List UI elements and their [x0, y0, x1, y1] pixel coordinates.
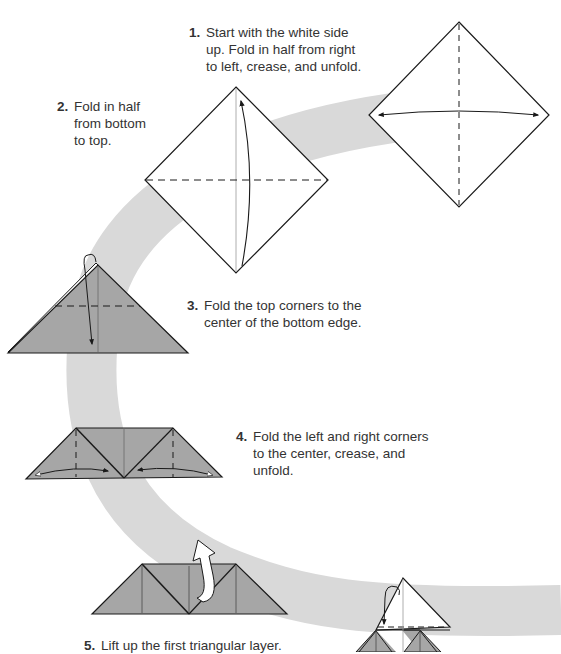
step-number: 1. [189, 24, 200, 41]
step-4-instruction: 4. Fold the left and right corners to th… [236, 428, 436, 479]
step-text: Fold the top corners to the center of th… [187, 297, 367, 331]
step-text: Fold the left and right corners to the c… [236, 428, 436, 479]
step-text: Lift up the first triangular layer. [84, 637, 344, 654]
step-number: 5. [84, 637, 95, 654]
step-text: Start with the white side up. Fold in ha… [189, 24, 369, 75]
step-1-instruction: 1. Start with the white side up. Fold in… [189, 24, 369, 75]
step-number: 3. [187, 297, 198, 314]
step-5-instruction: 5. Lift up the first triangular layer. [84, 637, 344, 654]
step-text: Fold in half from bottom to top. [57, 98, 157, 149]
step-3-diagram [8, 254, 188, 353]
step-number: 4. [236, 428, 247, 445]
step-3-instruction: 3. Fold the top corners to the center of… [187, 297, 367, 331]
step-2-instruction: 2. Fold in half from bottom to top. [57, 98, 157, 149]
step-4-diagram [26, 428, 222, 479]
step-number: 2. [57, 98, 68, 115]
step-1-diagram [369, 22, 549, 207]
